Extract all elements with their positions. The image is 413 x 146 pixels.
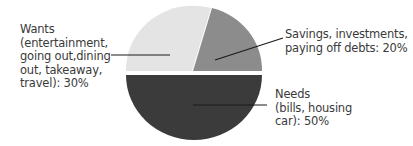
- label-savings: Savings, investments, paying off debts: …: [285, 28, 408, 55]
- slice-needs: [126, 75, 262, 140]
- label-wants: Wants (entertainment, going out,dining o…: [20, 23, 111, 91]
- label-needs: Needs (bills, housing car): 50%: [275, 88, 352, 129]
